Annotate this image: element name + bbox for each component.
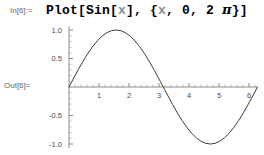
expr-part-2: ], { (126, 3, 158, 18)
y-tick-label: 1.0 (52, 26, 62, 35)
sine-plot-svg: 123456 1.00.5-0.5-1.0 (40, 18, 262, 154)
y-tick-labels: 1.00.5-0.5-1.0 (49, 26, 62, 149)
x-tick-label: 4 (187, 91, 191, 100)
expr-part-3: , 0, 2 (166, 3, 222, 18)
y-tick-label: 0.5 (52, 54, 62, 63)
expr-variable-x-2: x (158, 3, 166, 18)
x-tick-label: 1 (97, 91, 101, 100)
expr-variable-x-1: x (118, 3, 126, 18)
plot-major-ticks-x (99, 83, 249, 87)
x-tick-label: 2 (127, 91, 131, 100)
input-cell-label: In[6]:= (10, 6, 32, 15)
y-tick-label: -0.5 (49, 111, 62, 120)
y-tick-label: -1.0 (49, 140, 62, 149)
expr-part-4: }] (232, 3, 248, 18)
x-tick-label: 5 (217, 91, 221, 100)
input-expression[interactable]: Plot[Sin[x], {x, 0, 2 π}] (46, 2, 248, 18)
expr-part-1: Plot[Sin[ (46, 3, 118, 18)
x-tick-labels: 123456 (97, 91, 251, 100)
mathematica-notebook: In[6]:= Plot[Sin[x], {x, 0, 2 π}] Out[6]… (0, 0, 264, 155)
expr-pi-symbol: π (222, 2, 232, 17)
x-tick-label: 3 (157, 91, 161, 100)
plot-output-graphic[interactable]: 123456 1.00.5-0.5-1.0 (40, 18, 262, 154)
x-tick-label: 6 (247, 91, 251, 100)
output-cell-label: Out[6]= (4, 81, 30, 90)
